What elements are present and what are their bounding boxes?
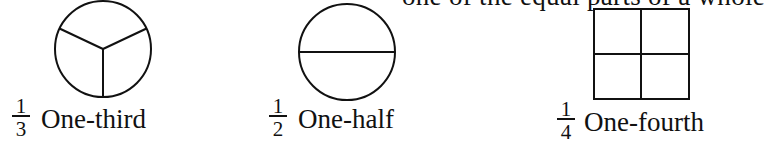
label-one-half: One-half [298, 106, 394, 133]
fraction-numerator: 1 [273, 96, 284, 114]
fraction-denominator: 2 [273, 119, 284, 140]
label-one-fourth: One-fourth [584, 109, 704, 136]
fraction-numerator: 1 [16, 96, 27, 114]
fraction-one-fourth: 1 4 [555, 99, 577, 143]
fraction-denominator: 4 [561, 122, 572, 143]
fraction-numerator: 1 [561, 99, 572, 117]
fraction-denominator: 3 [16, 119, 27, 140]
circle-halves-figure [299, 4, 395, 100]
square-quarters-figure [594, 9, 689, 99]
label-one-third: One-third [41, 106, 146, 133]
circle-thirds-figure [55, 1, 151, 97]
fraction-one-third: 1 3 [10, 96, 32, 140]
fraction-one-half: 1 2 [267, 96, 289, 140]
